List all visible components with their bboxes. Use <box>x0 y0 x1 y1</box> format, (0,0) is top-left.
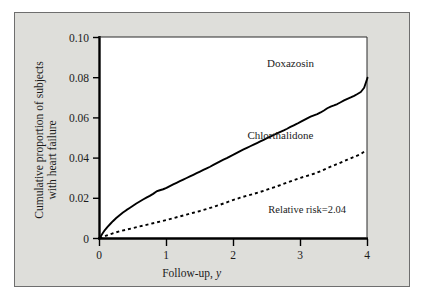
chart-canvas: 0.10 0.08 0.06 0.04 0.02 0 0 1 2 3 4 Fol… <box>0 0 424 299</box>
x-tick-label-0: 0 <box>96 249 102 261</box>
y-tick-label-0.04: 0.04 <box>69 152 89 164</box>
x-tick-label-2: 2 <box>230 249 236 261</box>
y-tick-label-0.08: 0.08 <box>69 72 89 84</box>
figure-container: 0.10 0.08 0.06 0.04 0.02 0 0 1 2 3 4 Fol… <box>0 0 424 299</box>
x-tick-label-3: 3 <box>297 249 303 261</box>
x-axis-title-unit: y <box>215 267 222 280</box>
y-axis-title-line2: with heart failure <box>46 120 58 199</box>
annotation-relative-risk: Relative risk=2.04 <box>268 204 346 215</box>
x-axis-ticks <box>100 239 368 246</box>
x-tick-label-4: 4 <box>364 249 370 261</box>
y-axis-title-line1: Cumulative proportion of subjects <box>33 61 46 219</box>
y-axis-title: Cumulative proportion of subjects with h… <box>33 61 58 219</box>
y-axis-ticks <box>93 38 99 239</box>
y-tick-label-0.06: 0.06 <box>69 112 89 124</box>
x-axis-title: Follow-up, y <box>162 267 222 280</box>
y-tick-label-0.02: 0.02 <box>69 192 89 204</box>
series-label-doxazosin: Doxazosin <box>267 57 315 69</box>
x-axis-title-text: Follow-up, <box>162 267 213 280</box>
x-tick-label-1: 1 <box>163 249 169 261</box>
y-tick-label-0.10: 0.10 <box>69 32 89 44</box>
y-tick-label-0: 0 <box>83 233 89 245</box>
series-label-chlorthalidone: Chlorthalidone <box>247 129 313 141</box>
